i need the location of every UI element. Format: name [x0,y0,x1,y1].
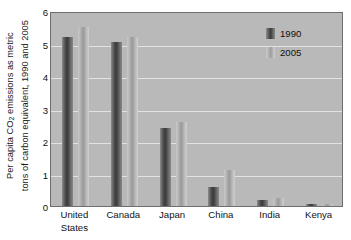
bar-1990 [62,37,73,206]
legend-item-1990: 1990 [266,26,334,41]
bar-2005 [224,170,235,206]
y-axis-title-line1-b: emissions as metric [5,33,15,117]
bar-2005 [176,122,187,207]
y-axis-tick-label: 0 [36,202,48,213]
y-axis-tick-label: 2 [36,137,48,148]
x-axis-category-label: UnitedStates [61,209,89,234]
y-axis-tick-label: 3 [36,104,48,115]
y-axis-tick-label: 5 [36,39,48,50]
x-axis-category-label-line1: Japan [159,209,185,220]
x-axis-category-label: Canada [106,209,140,222]
y-axis-title: Per capita CO2 emissions as metric tons … [0,0,36,212]
legend-swatch-2005-icon [266,47,275,58]
legend-item-2005: 2005 [266,45,334,60]
legend-swatch-1990-icon [266,28,275,39]
x-axis-category-label-line1: Canada [106,209,140,220]
bar-group [62,13,89,206]
bar-1990 [160,128,171,206]
x-axis-category-label-line1: United [61,209,89,220]
y-axis-tick-labels: 0123456 [34,0,48,240]
bar-2005 [78,27,89,206]
bar-2005 [273,198,284,206]
bar-1990 [208,187,219,207]
bar-1990 [257,200,268,207]
bar-1990 [306,204,317,206]
bar-1990 [111,42,122,206]
bar-group [160,13,187,206]
y-axis-tick-label: 4 [36,72,48,83]
y-axis-tick-label: 1 [36,169,48,180]
y-axis-title-line2: tons of carbon equivalent, 1990 and 2005 [19,20,32,191]
bar-2005 [127,37,138,206]
x-axis-category-label: India [259,209,280,222]
x-axis-category-label-line1: India [259,209,280,220]
legend: 1990 2005 [266,26,334,64]
plot-area: 1990 2005 [50,12,343,207]
x-axis-category-label-line2: States [61,222,89,235]
y-axis-title-line1-a: Per capita CO [5,121,15,179]
x-axis-category-label: Japan [159,209,185,222]
y-axis-title-subscript: 2 [9,117,16,121]
x-axis-category-labels: UnitedStatesCanadaJapanChinaIndiaKenya [50,209,343,240]
bar-group [111,13,138,206]
y-axis-tick-label: 6 [36,7,48,18]
bar-group [208,13,235,206]
x-axis-category-label: China [208,209,233,222]
x-axis-category-label-line1: China [208,209,233,220]
legend-label-1990: 1990 [280,28,301,39]
x-axis-category-label: Kenya [305,209,332,222]
chart-figure: Per capita CO2 emissions as metric tons … [0,0,351,240]
legend-label-2005: 2005 [280,47,301,58]
bar-2005 [322,204,333,206]
x-axis-category-label-line1: Kenya [305,209,332,220]
